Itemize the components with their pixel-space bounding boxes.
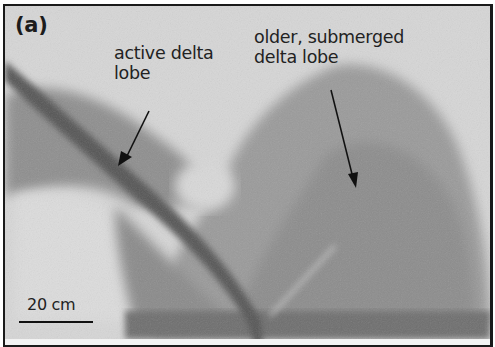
annotation-line: lobe bbox=[114, 64, 213, 84]
annotation-line: active delta bbox=[114, 44, 213, 64]
figure-panel: (a) active delta lobe older, submerged d… bbox=[3, 4, 493, 347]
annotation-line: older, submerged bbox=[254, 28, 404, 48]
tank-edge bbox=[5, 339, 490, 345]
annotation-line: delta lobe bbox=[254, 48, 404, 68]
annotation-active-lobe: active delta lobe bbox=[114, 44, 213, 83]
delta-photo bbox=[5, 6, 490, 345]
panel-label: (a) bbox=[15, 14, 47, 38]
scale-label: 20 cm bbox=[27, 296, 75, 314]
scale-bar bbox=[19, 321, 93, 323]
annotation-older-lobe: older, submerged delta lobe bbox=[254, 28, 404, 67]
